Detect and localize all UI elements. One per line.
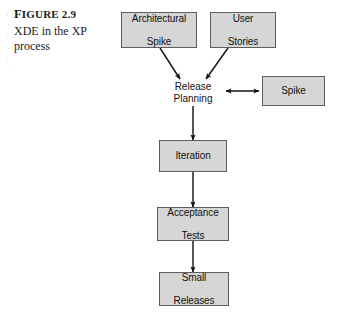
node-spike[interactable]: Spike xyxy=(262,76,325,106)
node-user-stories-line2: Stories xyxy=(226,36,260,48)
scan-speckle xyxy=(7,58,8,60)
node-acceptance-tests[interactable]: Acceptance Tests xyxy=(157,207,229,241)
scan-speckle xyxy=(7,36,8,38)
node-spike-label: Spike xyxy=(279,85,308,97)
node-iteration-label: Iteration xyxy=(173,150,212,162)
scan-speckle xyxy=(7,14,8,16)
figure-label-rest: IGURE xyxy=(22,8,59,20)
node-architectural-spike-line1: Architectural xyxy=(130,13,188,25)
scan-speckle xyxy=(8,70,9,71)
figure-page: FIGURE 2.9 XDE in the XP process Archi xyxy=(0,0,339,319)
node-release-planning-line2: Planning xyxy=(174,93,213,104)
node-architectural-spike[interactable]: Architectural Spike xyxy=(121,12,197,48)
figure-label-number: 2.9 xyxy=(62,8,76,20)
node-acceptance-tests-line2: Tests xyxy=(165,230,220,242)
edge-user-stories-to-release-planning xyxy=(206,48,228,79)
edge-architectural-spike-to-release-planning xyxy=(160,48,180,79)
figure-caption-text: XDE in the XP process xyxy=(14,24,110,54)
node-release-planning-line1: Release xyxy=(175,81,212,92)
node-small-releases-line1: Small xyxy=(172,272,217,284)
node-architectural-spike-line2: Spike xyxy=(130,36,188,48)
figure-label: FIGURE 2.9 xyxy=(14,8,110,21)
figure-caption: FIGURE 2.9 XDE in the XP process xyxy=(14,8,110,54)
node-small-releases[interactable]: Small Releases xyxy=(159,272,229,306)
node-user-stories-line1: User xyxy=(226,13,260,25)
node-user-stories[interactable]: User Stories xyxy=(210,12,276,48)
node-iteration[interactable]: Iteration xyxy=(159,140,227,172)
node-small-releases-line2: Releases xyxy=(172,295,217,307)
node-release-planning[interactable]: Release Planning xyxy=(163,79,223,106)
scan-speckle xyxy=(8,48,9,49)
scan-speckle xyxy=(8,24,9,25)
node-acceptance-tests-line1: Acceptance xyxy=(165,207,220,219)
figure-label-prefix: F xyxy=(14,7,22,21)
